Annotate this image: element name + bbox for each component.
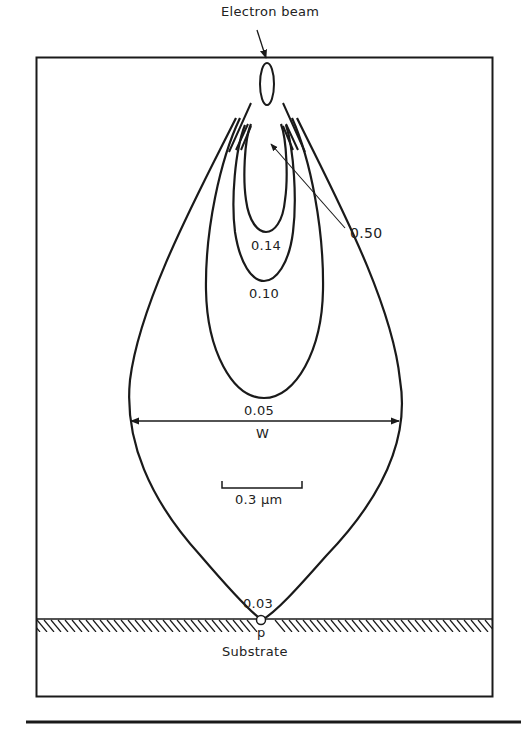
contour-0-14 [244,124,286,232]
contour-inner-ellipse [206,118,323,398]
point-p-marker [257,616,266,625]
electron-beam-label: Electron beam [221,5,319,18]
contour-0-50 [260,63,274,105]
contour-label-0-03: 0.03 [243,597,273,610]
point-p-label: p [257,626,266,639]
scale-bar [222,481,302,488]
substrate-hatching [30,620,509,632]
contour-label-0-14: 0.14 [251,239,281,252]
contour-label-0-50: 0.50 [350,226,382,240]
contour-0-05 [129,118,402,620]
contour-label-0-05: 0.05 [244,404,274,417]
energy-contour-diagram [0,0,521,731]
substrate-label: Substrate [222,645,288,658]
contour-label-0-10: 0.10 [249,287,279,300]
beam-arrow [257,30,266,58]
scale-bar-label: 0.3 μm [235,493,283,506]
width-label: W [256,427,269,440]
